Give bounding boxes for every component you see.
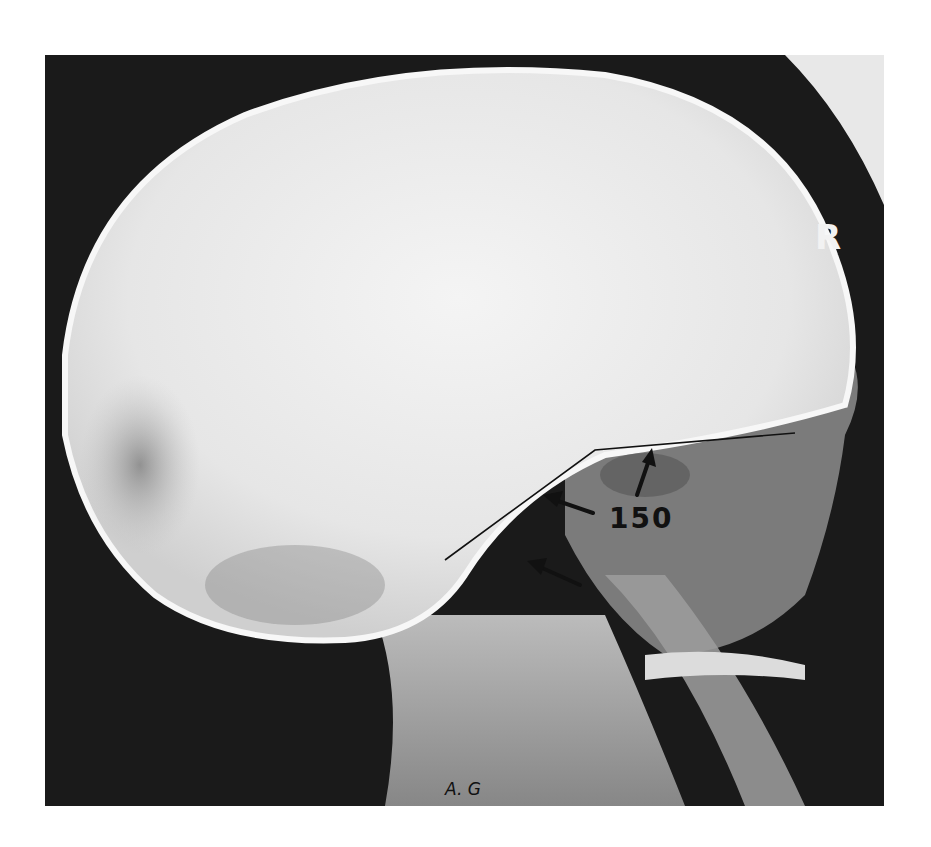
radiograph: 150 A. G R — [45, 55, 884, 806]
side-marker: R — [815, 217, 841, 257]
skull-xray-drawing — [45, 55, 884, 806]
patient-initials: A. G — [445, 779, 481, 799]
angle-label: 150 — [609, 502, 673, 535]
